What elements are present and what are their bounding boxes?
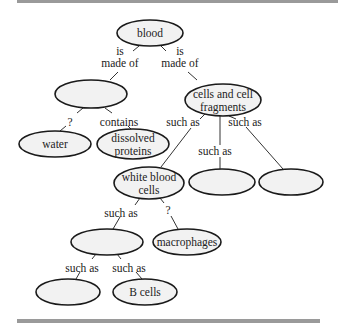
link-blank-4-to-b-cells: such as [112,254,146,279]
node-label: cells [138,184,160,196]
link-plasma-blank-to-water: ? [60,108,83,131]
link-blank-4-to-blank-5: such as [65,254,99,279]
node-label: proteins [114,145,152,158]
node-label: macrophages [157,236,218,249]
link-label: is [176,45,184,57]
node-b-cells: B cells [113,279,177,305]
node-label: blood [137,27,163,39]
connector-line [77,108,83,113]
node-blank-3 [259,169,323,195]
connector-line [60,126,66,131]
link-cells-fragments-to-blank-2: such as [198,116,232,169]
node-label: cells and cell [193,88,253,100]
connector-line [133,46,139,51]
node-ellipse [71,229,143,255]
node-cells-fragments: cells and cellfragments [185,84,261,116]
top-rule [17,0,338,3]
link-white-blood-cells-to-blank-4: such as [104,198,140,229]
link-label: contains [100,116,139,128]
node-ellipse [55,80,127,108]
node-white-blood-cells: white bloodcells [114,167,184,199]
node-blank-4 [71,229,143,255]
concept-map: ismade ofismade of?containssuch assuch a… [0,0,338,325]
node-ellipse [259,169,323,195]
link-label: ? [165,204,170,216]
link-label: made of [161,57,199,69]
node-label: B cells [129,286,161,298]
link-label: made of [101,57,139,69]
link-label: is [116,45,124,57]
node-ellipse [189,169,255,195]
node-label: dissolved [111,132,155,144]
node-macrophages: macrophages [153,229,221,255]
node-blood: blood [117,20,183,46]
connector-line [171,216,178,229]
node-label: white blood [122,171,177,183]
node-plasma-blank [55,80,127,108]
node-label: water [42,138,68,150]
link-label: ? [67,116,72,128]
connector-line [188,72,197,80]
node-ellipse [36,279,100,305]
connector-line [105,108,112,113]
node-blank-2 [189,169,255,195]
link-label: such as [104,207,138,219]
connector-line [246,127,283,169]
node-water: water [19,131,91,157]
link-label: such as [65,262,99,274]
link-label: such as [228,116,262,128]
link-label: such as [112,262,146,274]
link-blood-to-plasma-blank: ismade of [101,45,139,80]
bottom-rule [17,319,320,323]
link-plasma-blank-to-dissolved-proteins: contains [100,108,139,129]
link-white-blood-cells-to-macrophages: ? [160,198,178,229]
node-label: fragments [200,101,247,114]
node-blank-5 [36,279,100,305]
node-dissolved-proteins: dissolvedproteins [97,129,169,159]
link-cells-fragments-to-blank-3: such as [228,116,283,169]
link-blood-to-cells-fragments: ismade of [161,45,199,80]
link-label: such as [198,145,232,157]
link-label: such as [166,116,200,128]
connector-line [161,46,166,51]
connector-line [110,72,118,80]
